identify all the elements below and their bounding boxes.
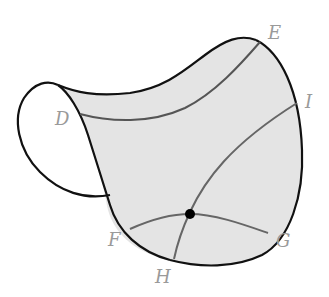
surface-body <box>58 38 302 265</box>
intersection-point <box>185 209 195 219</box>
label-I: I <box>305 93 312 111</box>
label-D: D <box>55 110 69 128</box>
label-H: H <box>155 268 171 286</box>
label-E: E <box>268 24 281 42</box>
surface-diagram <box>0 0 329 297</box>
label-G: G <box>276 232 290 250</box>
label-F: F <box>108 231 121 249</box>
